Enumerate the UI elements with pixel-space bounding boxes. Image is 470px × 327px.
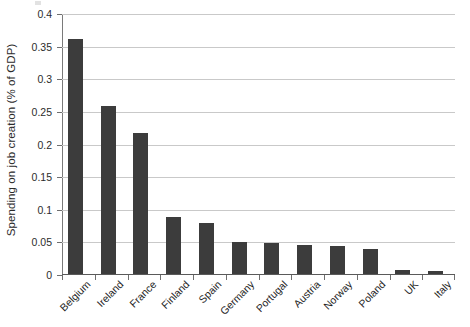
x-axis-tick-mark (95, 275, 96, 280)
bar-chart-figure: Spending on job creation (% of GDP) 00.0… (0, 0, 470, 327)
bar (101, 106, 116, 274)
x-axis-tick-mark (291, 275, 292, 280)
x-axis-tick-label: Ireland (94, 278, 125, 309)
y-axis-tick-mark (57, 145, 62, 146)
bar (428, 271, 443, 274)
x-axis-tick-label: France (127, 278, 159, 310)
x-axis-tick-label: Portugal (253, 278, 289, 314)
x-axis-tick-label: Poland (356, 278, 388, 310)
bar (166, 217, 181, 274)
bar (232, 242, 247, 274)
bar (199, 223, 214, 274)
gridline (62, 79, 455, 80)
y-axis-tick-label: 0.4 (8, 8, 52, 20)
y-axis-tick-mark (57, 177, 62, 178)
y-axis-tick-mark (57, 14, 62, 15)
x-axis-tick-label: UK (402, 278, 421, 297)
x-axis-tick-label: Austria (291, 278, 323, 310)
bar (297, 245, 312, 274)
x-axis-tick-mark (422, 275, 423, 280)
x-axis-tick-mark (62, 275, 63, 280)
x-axis-tick-mark (226, 275, 227, 280)
y-axis-tick-label: 0.2 (8, 139, 52, 151)
gridline (62, 145, 455, 146)
y-axis-tick-label: 0.35 (8, 41, 52, 53)
x-axis-tick-label: Norway (321, 278, 355, 312)
bar (363, 249, 378, 274)
x-axis-tick-mark (357, 275, 358, 280)
bar (330, 246, 345, 274)
scan-artifact (35, 1, 41, 5)
y-axis-tick-label: 0 (8, 269, 52, 281)
y-axis-tick-label: 0.05 (8, 236, 52, 248)
y-axis-tick-mark (57, 47, 62, 48)
gridline (62, 47, 455, 48)
x-axis-tick-label: Spain (196, 278, 223, 305)
bar (395, 270, 410, 274)
gridline (62, 177, 455, 178)
gridline (62, 210, 455, 211)
plot-area: 00.050.10.150.20.250.30.350.4 (62, 14, 455, 275)
x-axis-tick-mark (193, 275, 194, 280)
x-axis-tick-mark (259, 275, 260, 280)
y-axis-tick-label: 0.15 (8, 171, 52, 183)
x-axis-tick-mark (128, 275, 129, 280)
x-axis-tick-mark (160, 275, 161, 280)
y-axis-tick-mark (57, 210, 62, 211)
gridline (62, 14, 455, 15)
x-axis-tick-label: Germany (218, 278, 257, 317)
bar (264, 243, 279, 274)
y-axis-tick-label: 0.25 (8, 106, 52, 118)
y-axis-tick-mark (57, 242, 62, 243)
y-axis-tick-mark (57, 112, 62, 113)
x-axis-tick-label: Belgium (58, 278, 93, 313)
x-axis-tick-mark (324, 275, 325, 280)
bar (133, 133, 148, 274)
gridline (62, 242, 455, 243)
gridline (62, 112, 455, 113)
bar (68, 39, 83, 274)
y-axis-tick-label: 0.3 (8, 73, 52, 85)
x-axis-tick-label: Finland (158, 278, 191, 311)
x-axis-tick-mark (390, 275, 391, 280)
x-axis-tick-label: Italy (431, 278, 453, 300)
y-axis-tick-mark (57, 79, 62, 80)
y-axis-tick-label: 0.1 (8, 204, 52, 216)
x-axis-tick-mark (454, 275, 455, 280)
